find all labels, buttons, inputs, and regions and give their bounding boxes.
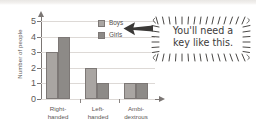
legend-label-girls: Girls <box>109 32 122 38</box>
bar-girls-ambidextrous <box>136 83 148 99</box>
x-category-line2: dextrous <box>114 113 158 121</box>
y-tick-label-4: 4 <box>31 32 36 41</box>
y-tick-mark-4 <box>37 37 41 38</box>
callout-text: You'll need a key like this. <box>162 25 244 49</box>
y-axis-title: Number of people <box>17 18 23 90</box>
y-tick-mark-1 <box>37 83 41 84</box>
bar-boys-right-handed <box>46 52 58 99</box>
x-category-label-ambidextrous: Ambi- dextrous <box>114 105 158 121</box>
gridline-0 <box>41 99 155 100</box>
x-category-line1: Right- <box>36 105 80 113</box>
x-axis-arrowhead <box>159 96 165 102</box>
bar-girls-right-handed <box>58 37 70 99</box>
bar-boys-left-handed <box>85 68 97 99</box>
y-tick-mark-2 <box>37 68 41 69</box>
x-tick-mark-2 <box>119 99 120 103</box>
y-tick-label-0: 0 <box>31 95 36 104</box>
y-tick-mark-5 <box>37 21 41 22</box>
y-tick-label-2: 2 <box>31 63 36 72</box>
bar-girls-left-handed <box>97 83 109 99</box>
callout-note: You'll need a key like this. <box>151 16 252 62</box>
bar-boys-ambidextrous <box>124 83 136 99</box>
x-tick-mark-1 <box>80 99 81 103</box>
y-tick-mark-0 <box>37 99 41 100</box>
callout-text-line2: key like this. <box>162 37 244 49</box>
x-category-line1: Ambi- <box>114 105 158 113</box>
y-axis-arrowhead <box>38 11 44 17</box>
girls-swatch-icon <box>98 32 105 39</box>
y-tick-label-1: 1 <box>31 79 36 88</box>
x-category-line2: handed <box>36 113 80 121</box>
arrow-left-icon <box>122 21 154 39</box>
boys-swatch-icon <box>98 20 105 27</box>
x-category-label-right-handed: Right- handed <box>36 105 80 121</box>
y-tick-label-3: 3 <box>31 48 36 57</box>
y-tick-label-5: 5 <box>31 17 36 26</box>
callout-text-line1: You'll need a <box>162 25 244 37</box>
y-tick-mark-3 <box>37 52 41 53</box>
